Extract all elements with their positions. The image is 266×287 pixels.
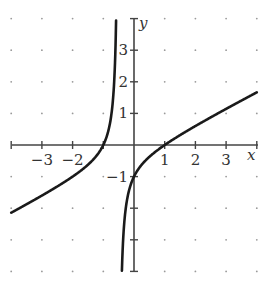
grid-dot: [195, 176, 197, 178]
grid-dot: [41, 207, 43, 209]
grid-dot: [10, 81, 12, 83]
grid-dot: [72, 271, 74, 273]
grid-dot: [256, 113, 258, 115]
grid-dot: [72, 207, 74, 209]
x-tick-label: −3: [31, 151, 53, 169]
grid-dot: [41, 271, 43, 273]
grid-dot: [225, 176, 227, 178]
grid-dot: [164, 207, 166, 209]
grid-dot: [225, 18, 227, 20]
grid-dot: [164, 49, 166, 51]
grid-dot: [102, 271, 104, 273]
grid-dot: [225, 207, 227, 209]
x-tick-label: −2: [62, 151, 84, 169]
grid-dot: [72, 239, 74, 241]
grid-dot: [41, 81, 43, 83]
grid-dot: [72, 113, 74, 115]
grid-dot: [164, 176, 166, 178]
grid-dot: [256, 81, 258, 83]
grid-dot: [225, 239, 227, 241]
grid-dot: [225, 49, 227, 51]
grid-dot: [102, 18, 104, 20]
grid-dot: [102, 81, 104, 83]
grid-dot: [195, 207, 197, 209]
grid-dot: [72, 18, 74, 20]
grid-dot: [164, 271, 166, 273]
grid-dot: [72, 81, 74, 83]
function-graph: −3−2123321−1 x y: [0, 0, 266, 287]
grid-dot: [10, 207, 12, 209]
grid-dot: [10, 239, 12, 241]
axes: [11, 18, 258, 272]
grid-dot: [102, 113, 104, 115]
grid-dot: [164, 239, 166, 241]
grid-dot: [10, 49, 12, 51]
x-tick-label: 2: [191, 151, 201, 169]
grid-dot: [195, 49, 197, 51]
grid-dot: [195, 271, 197, 273]
curve-branch: [122, 92, 257, 270]
grid-dot: [225, 271, 227, 273]
grid-dot: [102, 207, 104, 209]
y-tick-label: 3: [118, 41, 128, 59]
grid-dot: [10, 18, 12, 20]
x-axis-label: x: [247, 146, 256, 164]
grid-dot: [102, 239, 104, 241]
grid-dot: [164, 113, 166, 115]
grid-dot: [256, 207, 258, 209]
grid-dot: [164, 18, 166, 20]
grid-dot: [256, 18, 258, 20]
x-tick-label: 1: [160, 151, 170, 169]
grid-dot: [41, 176, 43, 178]
curve-branch: [11, 20, 116, 212]
grid-dot: [102, 176, 104, 178]
grid-dot: [225, 81, 227, 83]
grid-dot: [256, 239, 258, 241]
grid-dot: [256, 176, 258, 178]
grid-dot: [256, 271, 258, 273]
grid-dot: [10, 271, 12, 273]
y-tick-label: 1: [118, 104, 128, 122]
grid-dot: [195, 239, 197, 241]
y-axis-label: y: [138, 14, 148, 32]
grid-dot: [256, 49, 258, 51]
grid-dot: [10, 176, 12, 178]
grid-dot: [195, 18, 197, 20]
grid-dot: [164, 81, 166, 83]
y-tick-label: −1: [106, 168, 128, 186]
grid-dot: [41, 49, 43, 51]
grid-dot: [41, 239, 43, 241]
grid-dot: [102, 49, 104, 51]
grid-dot: [195, 81, 197, 83]
grid-dot: [195, 113, 197, 115]
y-tick-label: 2: [118, 73, 128, 91]
grid-dot: [41, 18, 43, 20]
x-tick-label: 3: [221, 151, 231, 169]
grid-dot: [10, 113, 12, 115]
grid-dot: [225, 113, 227, 115]
grid-dot: [41, 113, 43, 115]
grid-dot: [72, 49, 74, 51]
